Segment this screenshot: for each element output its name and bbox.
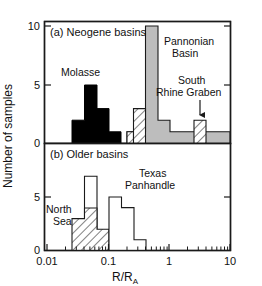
x-axis-title-main: R/R xyxy=(112,270,133,284)
south-rhine-graben-bar xyxy=(194,120,206,143)
molasse-label: Molasse xyxy=(61,66,100,78)
panel-a-ytick-0: 0 xyxy=(34,137,40,149)
south-rhine-graben-label-line1: South xyxy=(178,74,206,86)
panel-a-label: (a) Neogene basins xyxy=(50,26,147,38)
xtick-label-1: 0.1 xyxy=(101,255,116,267)
panel-b: 5 0 (b) Older basins North Sea Texas Pan… xyxy=(34,144,231,257)
figure-container: 10 5 0 (a) Neogene basins Molasse Pannon… xyxy=(0,0,262,286)
panel-a: 10 5 0 (a) Neogene basins Molasse Pannon… xyxy=(28,20,231,149)
panel-b-ytick-5: 5 xyxy=(34,191,40,203)
south-rhine-graben-bar-left xyxy=(134,109,146,144)
panel-a-ytick-10: 10 xyxy=(28,20,40,32)
neogene-hatched-bar-1 xyxy=(127,132,134,144)
north-sea-label-line2: Sea xyxy=(53,215,72,227)
x-axis-title-subscript: A xyxy=(133,277,139,286)
panel-a-ytick-5: 5 xyxy=(34,79,40,91)
xtick-label-0: 0.01 xyxy=(36,255,57,267)
xtick-label-2: 1 xyxy=(166,255,172,267)
south-rhine-graben-label-line2: Rhine Graben xyxy=(156,86,222,98)
panel-b-label: (b) Older basins xyxy=(50,148,129,160)
xtick-label-3: 10 xyxy=(224,255,236,267)
texas-panhandle-label-line2: Panhandle xyxy=(125,179,175,191)
texas-panhandle-label-line1: Texas xyxy=(139,167,166,179)
north-sea-label-line1: North xyxy=(46,203,72,215)
histogram-figure: 10 5 0 (a) Neogene basins Molasse Pannon… xyxy=(0,0,262,286)
y-axis-title: Number of samples xyxy=(1,84,15,188)
pannonian-basin-label-line2: Basin xyxy=(172,47,198,59)
x-axis-title: R/RA xyxy=(112,270,139,286)
pannonian-basin-label-line1: Pannonian xyxy=(164,35,214,47)
